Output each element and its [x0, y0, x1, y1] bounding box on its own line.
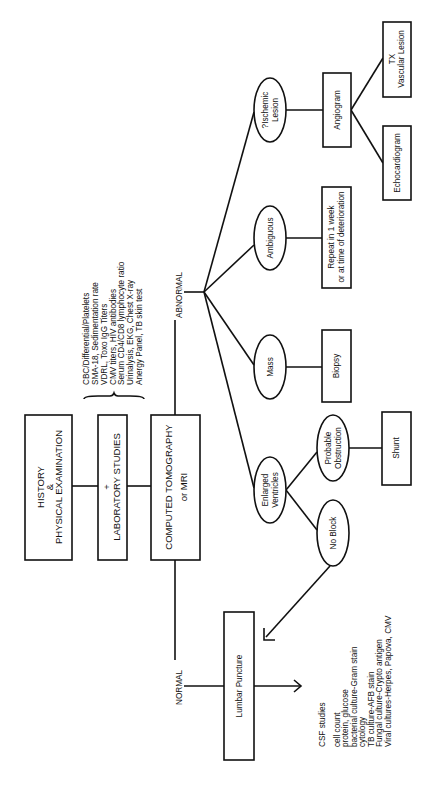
csf-item: cytology: [358, 716, 367, 747]
node-probable-obstruction: Probable Obstruction: [317, 415, 349, 481]
svg-text:Ambiguous: Ambiguous: [266, 218, 275, 259]
lab-item: SMA-18, Sedimentation rate: [91, 282, 100, 385]
abnormal-label: ABNORMAL: [175, 272, 184, 318]
svg-text:Lumbar Puncture: Lumbar Puncture: [235, 654, 244, 717]
box-biopsy: Biopsy: [322, 330, 351, 402]
imaging-line-1: COMPUTED TOMOGRAPHY: [163, 424, 174, 550]
box-lumbar-puncture: Lumbar Puncture: [224, 612, 254, 760]
svg-text:Echocardiogram: Echocardiogram: [393, 133, 402, 193]
imaging-line-2: or MRI: [178, 473, 189, 502]
node-no-block: No Block: [317, 500, 349, 566]
csf-item: Fungal culture-Crypto antigen: [375, 639, 384, 747]
connector-hub-mass: [204, 292, 254, 365]
svg-text:Probable: Probable: [324, 431, 333, 464]
brace-icon: [84, 393, 144, 399]
svg-text:Vascular Lesion: Vascular Lesion: [397, 30, 406, 88]
connector-angiogram-tx: [351, 58, 383, 110]
box-angiogram: Angiogram: [323, 73, 351, 147]
box-echocardiogram: Echocardiogram: [383, 126, 411, 200]
csf-studies-list: CSF studies cell count protein, glucose …: [318, 615, 393, 747]
flowchart-canvas: HISTORY & PHYSICAL EXAMINATION + LABORAT…: [0, 0, 424, 792]
connector-hub-ischemic: [204, 112, 254, 292]
connector-noblock-lp: [266, 566, 330, 637]
connector-angiogram-echo: [351, 110, 383, 163]
svg-text:Biopsy: Biopsy: [332, 353, 341, 378]
node-ischemic-lesion: ?Ischemic Lesion: [254, 78, 286, 142]
svg-text:?Ischemic: ?Ischemic: [261, 92, 270, 129]
svg-text:Lesion: Lesion: [271, 97, 280, 122]
svg-text:Obstruction: Obstruction: [334, 427, 343, 469]
connector-enlarged-noblock: [286, 490, 317, 530]
lab-item: CBC/Differential/Platelets: [82, 293, 91, 385]
svg-text:TX: TX: [388, 53, 397, 64]
box-tx-vascular-lesion: TX Vascular Lesion: [383, 22, 411, 97]
connector-enlarged-obstruction: [286, 452, 317, 490]
normal-label: NORMAL: [175, 670, 184, 705]
lab-item: Anergy Panel, TB skin test: [135, 288, 144, 385]
svg-text:Ventricles: Ventricles: [271, 472, 280, 508]
svg-text:Angiogram: Angiogram: [333, 90, 342, 130]
connector-hub-enlarged: [204, 292, 254, 488]
box-imaging: COMPUTED TOMOGRAPHY or MRI: [151, 415, 200, 560]
svg-text:Mass: Mass: [266, 357, 275, 377]
csf-title: CSF studies: [318, 702, 327, 747]
lab-line-2: LABORATORY STUDIES: [111, 433, 122, 541]
node-mass: Mass: [254, 335, 286, 399]
svg-text:Shunt: Shunt: [392, 437, 401, 459]
node-enlarged-ventricles: Enlarged Ventricles: [254, 457, 286, 523]
lab-item: VDRL, Toxo IgG Titers: [100, 304, 109, 385]
csf-item: Viral cultures-Herpes, Papova, CMV: [384, 615, 393, 747]
connector-hub-ambiguous: [204, 245, 254, 292]
svg-text:Enlarged: Enlarged: [261, 473, 270, 506]
svg-text:or at time of deterioration: or at time of deterioration: [337, 191, 346, 282]
svg-text:Repeat in 1 week: Repeat in 1 week: [327, 204, 336, 268]
lab-item: Urinalysis, EKG, Chest X-ray: [126, 279, 135, 385]
box-repeat: Repeat in 1 week or at time of deteriora…: [322, 187, 351, 288]
lab-item: Serum CD4/CD8 lymphocyte ratio: [117, 261, 126, 385]
node-ambiguous: Ambiguous: [254, 206, 286, 270]
box-shunt: Shunt: [382, 412, 411, 485]
box-history: HISTORY & PHYSICAL EXAMINATION: [25, 415, 72, 560]
lab-test-list: CBC/Differential/Platelets SMA-18, Sedim…: [82, 261, 144, 385]
box-lab-studies: + LABORATORY STUDIES: [98, 415, 127, 560]
history-line-3: PHYSICAL EXAMINATION: [53, 430, 64, 544]
svg-text:No Block: No Block: [329, 516, 338, 550]
csf-item: protein, glucose: [341, 689, 350, 747]
